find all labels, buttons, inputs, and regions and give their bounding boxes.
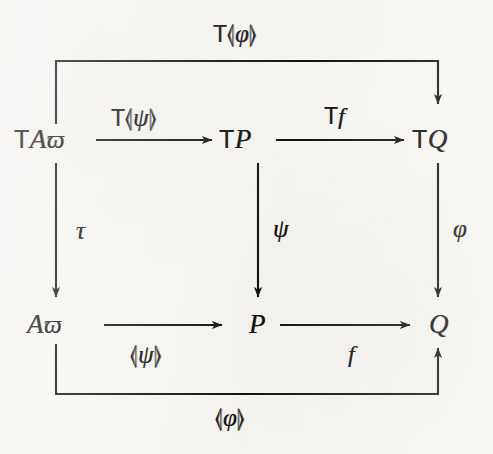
arrow-label-bottom-outer-open-bracket: ⦉ (215, 404, 222, 430)
arrow-label-top-left-edge-functor: T (111, 105, 125, 131)
arrow-label-top-right-edge-functor: T (324, 103, 338, 129)
node-bottom-middle-object: P (249, 309, 266, 339)
arrow-label-bottom-left-edge: ⦉ψ⦊ (130, 341, 162, 367)
arrow-label-bottom-right-edge: f (348, 342, 355, 366)
arrow-label-bottom-outer-close-bracket: ⦊ (237, 404, 244, 430)
node-top-right-functor: T (412, 125, 428, 153)
arrow-label-bottom-left-edge-open-bracket: ⦉ (130, 341, 137, 367)
arrow-label-left-vertical-inner: τ (76, 217, 85, 244)
arrow-label-bottom-outer-inner: φ (223, 404, 237, 431)
node-top-middle: TP (219, 126, 252, 153)
arrow-label-right-vertical: φ (453, 216, 467, 241)
arrow-bottom-outer (56, 344, 438, 394)
arrow-label-middle-vertical-inner: ψ (273, 215, 289, 242)
arrow-label-bottom-outer: ⦉φ⦊ (215, 404, 245, 430)
node-bottom-middle: P (249, 311, 266, 338)
arrow-label-left-vertical: τ (76, 218, 85, 243)
commutative-diagram-canvas (0, 0, 493, 454)
node-bottom-right-object: Q (429, 309, 449, 339)
arrow-label-top-left-edge: T⦉ψ⦊ (111, 104, 157, 130)
arrow-label-middle-vertical: ψ (273, 216, 289, 241)
node-bottom-left-index: ϖ (44, 311, 62, 338)
arrow-label-top-left-edge-open-bracket: ⦉ (125, 104, 132, 130)
node-top-left: TAϖ (14, 126, 65, 153)
arrow-label-top-right-edge-inner: f (338, 103, 345, 129)
arrow-label-top-outer: T⦉φ⦊ (213, 20, 257, 46)
node-top-left-index: ϖ (47, 126, 65, 153)
node-bottom-right: Q (429, 311, 449, 338)
arrow-label-bottom-right-edge-inner: f (348, 341, 355, 367)
arrow-label-bottom-left-edge-close-bracket: ⦊ (154, 341, 161, 367)
node-bottom-left-object: A (27, 309, 44, 339)
node-top-middle-object: P (235, 124, 252, 154)
diagram-page: TAϖ TP TQ Aϖ P Q T⦉φ⦊ T⦉ψ⦊ Tf τ ψ φ ⦉ψ⦊ (0, 0, 493, 454)
node-top-left-functor: T (14, 125, 30, 153)
arrow-label-bottom-left-edge-inner: ψ (138, 341, 154, 368)
arrow-label-right-vertical-inner: φ (453, 215, 467, 242)
node-bottom-left: Aϖ (27, 311, 62, 338)
node-top-middle-functor: T (219, 125, 235, 153)
arrow-label-top-left-edge-inner: ψ (133, 104, 149, 131)
node-top-left-object: A (30, 124, 47, 154)
arrow-label-top-outer-open-bracket: ⦉ (227, 20, 234, 46)
arrow-label-top-outer-inner: φ (235, 20, 249, 47)
node-top-right-object: Q (428, 124, 448, 154)
arrow-label-top-outer-functor: T (213, 21, 227, 47)
arrow-label-top-right-edge: Tf (324, 104, 345, 128)
node-top-right: TQ (412, 126, 448, 153)
arrow-label-top-outer-close-bracket: ⦊ (249, 20, 256, 46)
arrow-label-top-left-edge-close-bracket: ⦊ (149, 104, 156, 130)
